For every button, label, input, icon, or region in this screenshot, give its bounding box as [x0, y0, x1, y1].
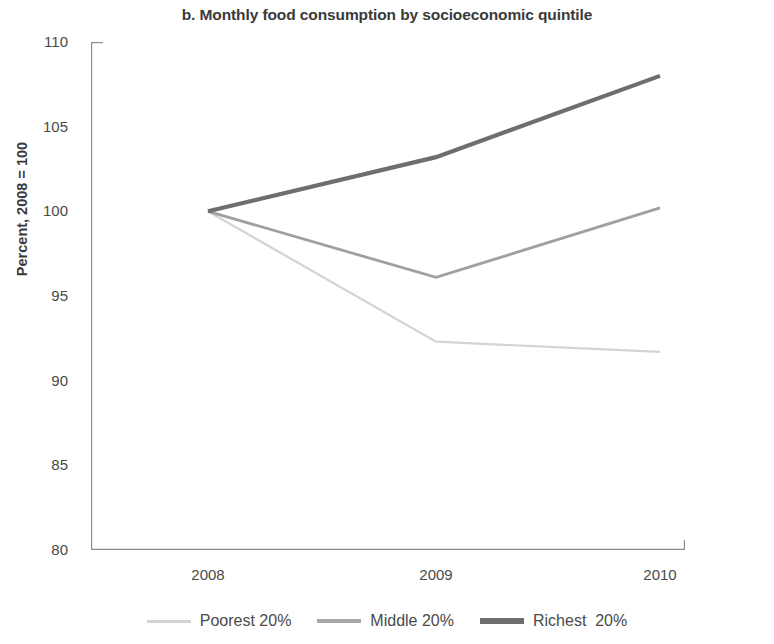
chart-title: b. Monthly food consumption by socioecon… — [0, 6, 774, 24]
series-line-2 — [208, 76, 660, 211]
plot-svg — [91, 42, 685, 550]
y-axis-tick-label: 95 — [16, 288, 68, 303]
legend-label: Poorest 20% — [200, 612, 292, 630]
y-axis-tick-label: 100 — [16, 203, 68, 218]
x-axis-tick-label: 2010 — [600, 566, 720, 583]
legend-label: Richest 20% — [533, 612, 627, 630]
axes-group — [91, 42, 685, 550]
x-axis-tick-label: 2009 — [376, 566, 496, 583]
chart-figure: b. Monthly food consumption by socioecon… — [0, 0, 774, 644]
chart-legend: Poorest 20%Middle 20%Richest 20% — [0, 612, 774, 630]
series-line-1 — [208, 208, 660, 277]
plot-area — [91, 42, 685, 550]
legend-swatch-line-icon — [317, 619, 361, 623]
y-axis-tick-label: 85 — [16, 457, 68, 472]
y-axis-tick-label: 80 — [16, 542, 68, 557]
legend-item[interactable]: Poorest 20% — [147, 612, 292, 630]
x-axis-tick-label: 2008 — [148, 566, 268, 583]
legend-swatch-line-icon — [147, 620, 191, 623]
series-lines-group — [208, 76, 660, 352]
y-axis-tick-label: 110 — [16, 34, 68, 49]
legend-label: Middle 20% — [370, 612, 454, 630]
y-axis-tick-label: 90 — [16, 373, 68, 388]
y-axis-tick-label: 105 — [16, 119, 68, 134]
legend-item[interactable]: Middle 20% — [317, 612, 454, 630]
legend-item[interactable]: Richest 20% — [480, 612, 627, 630]
legend-swatch-line-icon — [480, 618, 524, 624]
